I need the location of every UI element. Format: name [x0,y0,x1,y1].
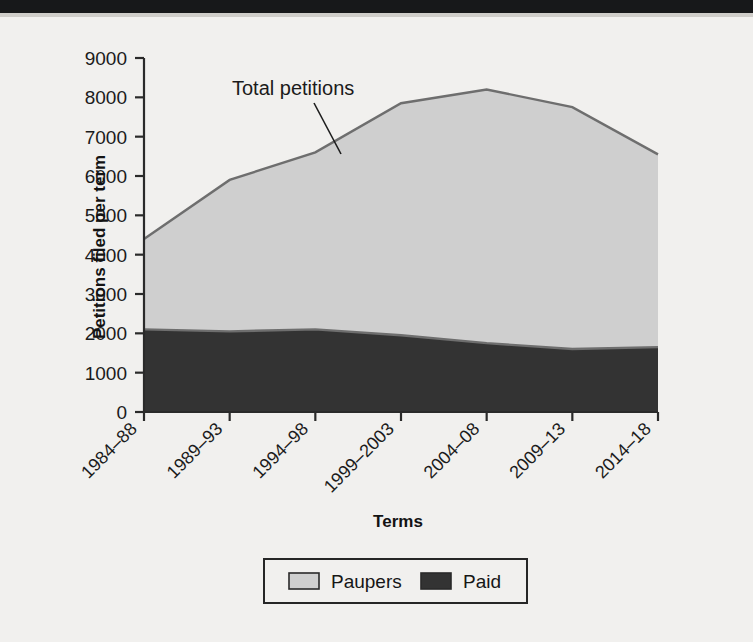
area-series-paupers [144,89,658,349]
x-axis-ticks [144,412,658,421]
legend-swatch-paupers [289,573,319,589]
y-tick-label: 7000 [85,127,127,148]
x-tick-label: 1999–2003 [320,419,398,497]
y-axis-title: Petitions filed per term [90,155,109,339]
chart-svg: 0100020003000400050006000700080009000 19… [0,17,753,642]
x-tick-label: 2009–13 [505,419,569,483]
y-tick-label: 9000 [85,48,127,69]
legend-label-paupers: Paupers [331,571,402,592]
x-tick-label: 2014–18 [591,419,655,483]
plot-area [144,89,658,412]
x-axis-title: Terms [373,512,423,531]
x-tick-label: 1994–98 [248,419,312,483]
legend-swatch-paid [421,573,451,589]
x-axis-tick-labels: 1984–881989–931994–981999–20032004–08200… [77,419,655,497]
x-tick-label: 1984–88 [77,419,141,483]
x-tick-label: 2004–08 [420,419,484,483]
total-petitions-annotation-label: Total petitions [232,77,354,99]
y-tick-label: 8000 [85,87,127,108]
x-tick-label: 1989–93 [163,419,227,483]
figure-page: 0100020003000400050006000700080009000 19… [0,0,753,642]
y-tick-label: 1000 [85,363,127,384]
stacked-area-chart: 0100020003000400050006000700080009000 19… [0,17,753,642]
legend-label-paid: Paid [463,571,501,592]
legend: Paupers Paid [264,559,527,603]
y-axis-ticks [135,58,144,412]
scan-top-bar [0,0,753,13]
